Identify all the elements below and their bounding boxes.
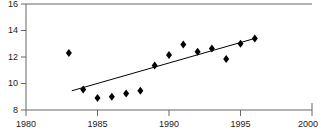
x-tick-label-1980: 1980 <box>9 120 43 129</box>
data-point-1988 <box>137 87 143 95</box>
data-point-1990 <box>166 51 172 59</box>
y-tick-label-14: 14 <box>0 26 18 35</box>
data-point-1986 <box>109 93 115 101</box>
x-tick-label-1985: 1985 <box>81 120 115 129</box>
y-tick-label-12: 12 <box>0 53 18 62</box>
y-tick-label-8: 8 <box>0 106 18 115</box>
y-axis-ticks <box>21 4 26 110</box>
data-point-1996 <box>252 34 258 42</box>
data-point-1989 <box>152 62 158 70</box>
chart-plot-area <box>0 0 326 134</box>
trend-line <box>72 38 255 90</box>
data-point-1987 <box>123 89 129 97</box>
scatter-chart: 16 14 12 10 8 1980 1985 1990 1995 2000 <box>0 0 326 134</box>
data-point-1994 <box>223 55 229 63</box>
data-point-1985 <box>95 94 101 102</box>
x-axis-ticks <box>26 110 312 116</box>
x-tick-label-1990: 1990 <box>152 120 186 129</box>
x-tick-label-2000: 2000 <box>291 120 325 129</box>
trend-line-segment <box>72 38 255 90</box>
data-point-1983 <box>66 49 72 57</box>
x-tick-label-1995: 1995 <box>224 120 258 129</box>
y-tick-label-10: 10 <box>0 79 18 88</box>
data-point-1995 <box>238 40 244 48</box>
data-point-1991 <box>180 40 186 48</box>
y-tick-label-16: 16 <box>0 0 18 9</box>
data-point-markers <box>66 34 258 102</box>
